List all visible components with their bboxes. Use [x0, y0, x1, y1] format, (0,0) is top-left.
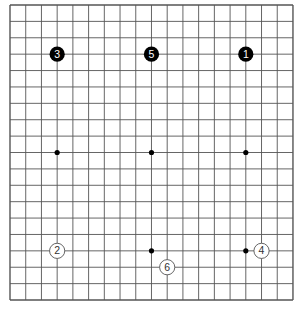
go-board[interactable]: 123456	[0, 0, 302, 312]
move-number: 2	[54, 244, 60, 256]
stone-white-move-4: 4	[254, 243, 269, 258]
stone-white-move-2: 2	[50, 243, 65, 258]
star-point-icon	[243, 248, 248, 253]
move-number: 3	[54, 48, 60, 60]
move-number: 5	[149, 48, 155, 60]
stone-black-move-3: 3	[50, 47, 65, 62]
stones-layer: 123456	[50, 47, 270, 275]
star-point-icon	[243, 150, 248, 155]
move-number: 6	[164, 261, 170, 273]
stone-white-move-6: 6	[160, 260, 175, 275]
move-number: 1	[243, 48, 249, 60]
star-point-icon	[149, 150, 154, 155]
stone-black-move-5: 5	[144, 47, 159, 62]
move-number: 4	[259, 244, 265, 256]
star-point-icon	[149, 248, 154, 253]
stone-black-move-1: 1	[238, 47, 253, 62]
star-point-icon	[55, 150, 60, 155]
